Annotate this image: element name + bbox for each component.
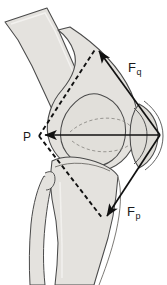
bone-group — [5, 8, 163, 285]
label-patellar-force: Fp — [127, 203, 140, 221]
knee-joint-force-diagram: Fq Fp P — [0, 0, 167, 285]
label-resultant-force: P — [23, 128, 32, 146]
label-fq-base: F — [128, 60, 136, 75]
label-p-subscript — [31, 136, 32, 146]
label-quadriceps-force: Fq — [128, 59, 141, 77]
label-fq-subscript: q — [136, 67, 142, 77]
tibia-bone — [50, 157, 118, 285]
label-fp-subscript: p — [135, 211, 141, 221]
fibula-bone — [29, 176, 53, 285]
label-p-base: P — [23, 130, 31, 144]
label-fp-base: F — [127, 204, 135, 219]
